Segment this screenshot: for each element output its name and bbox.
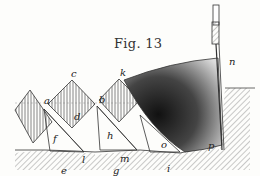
label-g: g — [113, 166, 119, 176]
label-p: p — [208, 141, 214, 151]
label-a: a — [44, 96, 50, 106]
label-d: d — [74, 112, 80, 122]
shaded-fan — [124, 58, 222, 152]
label-n: n — [229, 57, 235, 67]
figure-diagram — [0, 0, 260, 176]
label-c: c — [71, 69, 77, 79]
label-i: i — [167, 164, 170, 174]
label-l: l — [82, 155, 85, 165]
label-b: b — [99, 95, 105, 105]
label-h: h — [107, 131, 113, 141]
label-o: o — [161, 140, 167, 150]
label-k: k — [120, 68, 126, 78]
label-e: e — [61, 166, 67, 176]
label-f: f — [53, 134, 57, 144]
label-m: m — [120, 154, 129, 164]
